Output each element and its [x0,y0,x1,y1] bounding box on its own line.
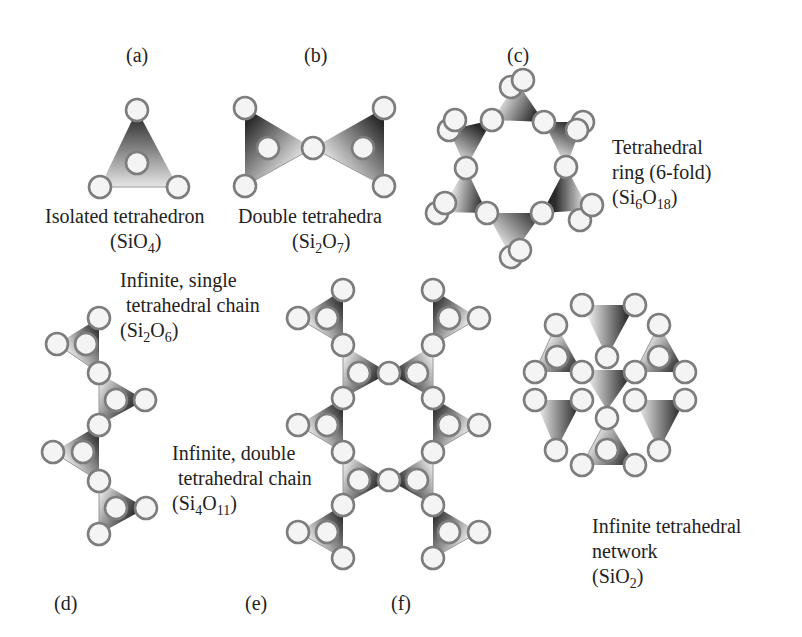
formula-sio4: (SiO4) [110,229,161,261]
atom-circle [545,439,567,461]
atom-circle [571,454,593,476]
caption-line: tetrahedral chain [172,466,312,491]
atom-circle [332,441,354,463]
atom-circle [455,157,477,179]
atom-circle [316,521,338,543]
caption-isolated-tetrahedron: Isolated tetrahedron [45,204,204,229]
caption-double-chain: Infinite, double tetrahedral chain [172,441,312,491]
atom-circle [481,109,503,131]
atom-circle [352,137,374,159]
atom-circle [434,192,456,214]
formula-subscript: 4 [148,241,155,256]
caption-tetrahedral-network: Infinite tetrahedral network [592,514,741,564]
atom-circle [46,333,68,355]
caption-line: Infinite tetrahedral [592,514,741,539]
atom-circle [302,137,324,159]
atom-circle [566,119,588,141]
caption-line: Double tetrahedra [238,204,382,229]
atom-circle [348,469,370,491]
atom-circle [674,389,696,411]
formula-text: ) [637,565,644,587]
silicate-structures-figure: (a) (b) (c) (d) (e) (f) Isolated tetrahe… [0,0,802,637]
atom-circle [88,470,110,492]
caption-single-chain: Infinite, single tetrahedral chain [120,268,260,318]
caption-line: Infinite, double [172,441,312,466]
atom-circle [512,69,534,91]
atom-circle [348,362,370,384]
atom-circle [126,152,148,174]
caption-tetrahedral-ring: Tetrahedral ring (6-fold) [612,135,711,185]
atom-circle [546,346,568,368]
formula-text: ) [344,230,351,252]
panel-label-f: (f) [391,592,411,614]
caption-double-tetrahedra: Double tetrahedra [238,204,382,229]
panel-label-c: (c) [507,44,529,66]
atom-circle [468,414,490,436]
atom-circle [234,97,256,119]
caption-line: Tetrahedral [612,135,711,160]
atom-circle [332,494,354,516]
formula-text: O [150,319,164,341]
atom-circle [287,521,309,543]
formula-si6o18: (Si6O18) [612,185,677,217]
formula-text: ) [671,186,678,208]
atom-circle [545,314,567,336]
atom-circle [468,307,490,329]
atom-circle [624,454,646,476]
atom-circle [422,547,444,569]
atom-circle [509,239,531,261]
atom-circle [648,346,670,368]
atom-circle [75,333,97,355]
atom-circle [406,362,428,384]
atom-circle [438,307,460,329]
atom-circle [571,361,593,383]
atom-circle [287,414,309,436]
atom-circle [134,389,156,411]
atom-circle [332,334,354,356]
atom-circle [332,547,354,569]
formula-text: O [322,230,336,252]
atom-circle [596,407,618,429]
formula-text: ) [155,230,162,252]
formula-subscript: 18 [657,197,671,212]
atom-circle [332,279,354,301]
caption-line: Isolated tetrahedron [45,204,204,229]
formula-subscript: 2 [630,576,637,591]
formula-text: (Si [120,319,143,341]
atom-circle [332,387,354,409]
panel-label-d: (d) [54,592,77,614]
formula-si2o7: (Si2O7) [292,229,350,261]
formula-text: (Si [172,492,195,514]
formula-text: ) [172,319,179,341]
formula-text: O [642,186,656,208]
atom-circle [88,414,110,436]
formula-text: (Si [292,230,315,252]
atom-circle [422,494,444,516]
formula-text: (Si [612,186,635,208]
formula-si2o6: (Si2O6) [120,318,178,350]
formula-subscript: 7 [337,241,344,256]
atom-circle [378,469,400,491]
formula-text: O [202,492,216,514]
atom-circle [88,362,110,384]
atom-circle [316,414,338,436]
atom-circle [316,307,338,329]
atom-circle [533,111,555,133]
atom-circle [531,202,553,224]
atom-circle [648,439,670,461]
formula-text: (SiO [592,565,630,587]
panel-label-b: (b) [304,44,327,66]
atom-circle [135,497,157,519]
panel-label-e: (e) [245,592,267,614]
atom-circle [234,175,256,197]
atom-circle [422,441,444,463]
atom-circle [72,441,94,463]
atom-circle [105,389,127,411]
caption-line: ring (6-fold) [612,160,711,185]
atom-circle [422,279,444,301]
atom-circle [422,387,444,409]
formula-subscript: 6 [165,330,172,345]
atom-circle [89,176,111,198]
atom-circle [422,334,444,356]
atom-circle [555,156,577,178]
